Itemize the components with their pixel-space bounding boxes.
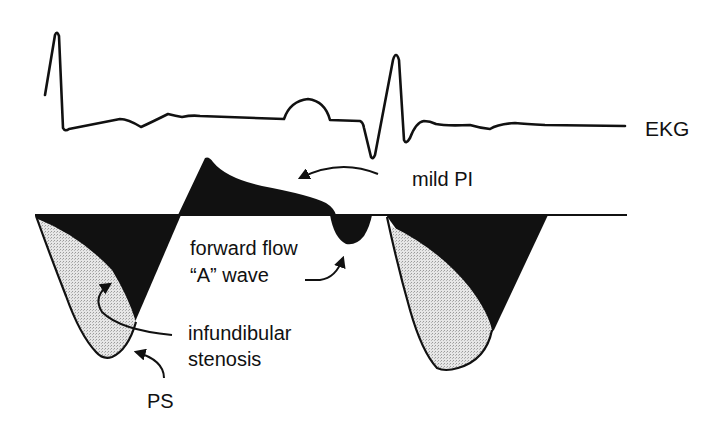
doppler-ekg-diagram: EKG mild PI forward flow “A” wave infund… [0, 0, 726, 428]
a-wave-label: “A” wave [190, 264, 269, 286]
ps-arrow [136, 352, 164, 378]
stenosis-label: stenosis [188, 348, 261, 370]
mild-pi-arrow [300, 167, 378, 178]
ekg-label: EKG [645, 117, 689, 140]
a-wave-flow [330, 215, 372, 244]
mild-pi-flow [178, 158, 336, 216]
infundibular-label: infundibular [188, 322, 292, 344]
ps-label: PS [147, 390, 174, 412]
a-wave-arrow [305, 258, 343, 280]
right-systolic-envelope [386, 215, 548, 370]
forward-flow-label: forward flow [190, 237, 298, 259]
ekg-trace [45, 33, 625, 158]
mild-pi-label: mild PI [412, 168, 473, 190]
